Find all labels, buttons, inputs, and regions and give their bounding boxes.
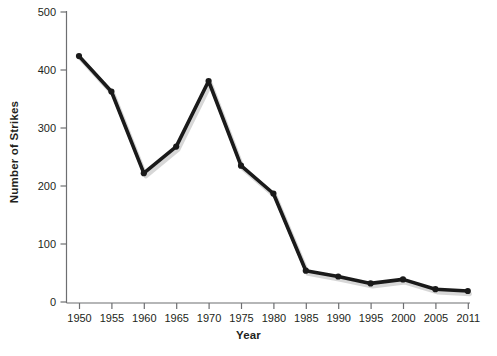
data-point (368, 280, 374, 286)
x-tick-label-1975: 1975 (229, 312, 253, 324)
x-tick-label-2005: 2005 (424, 312, 448, 324)
data-point (206, 78, 212, 84)
x-tick-label-1980: 1980 (262, 312, 286, 324)
y-tick-label-500: 500 (26, 6, 56, 18)
data-point (141, 170, 147, 176)
y-tick-label-300: 300 (26, 122, 56, 134)
data-point (400, 276, 406, 282)
y-tick-label-200: 200 (26, 180, 56, 192)
data-point (76, 53, 82, 59)
x-tick-label-1965: 1965 (164, 312, 188, 324)
data-point (335, 273, 341, 279)
x-tick-marks (80, 303, 469, 309)
data-point (238, 163, 244, 169)
x-tick-label-1985: 1985 (294, 312, 318, 324)
y-tick-label-0: 0 (26, 296, 56, 308)
data-point (108, 88, 114, 94)
series-line (79, 56, 468, 291)
data-point (303, 268, 309, 274)
x-tick-label-2000: 2000 (391, 312, 415, 324)
axes-group (67, 11, 471, 303)
x-tick-label-1970: 1970 (197, 312, 221, 324)
x-tick-label-1960: 1960 (132, 312, 156, 324)
x-tick-label-1950: 1950 (67, 312, 91, 324)
y-tick-label-100: 100 (26, 238, 56, 250)
data-point (465, 288, 471, 294)
series-markers (76, 53, 471, 294)
x-tick-label-2011: 2011 (456, 312, 480, 324)
series-line-shadow (81, 59, 470, 294)
chart-plot-area (0, 0, 497, 356)
data-point (270, 190, 276, 196)
y-tick-label-400: 400 (26, 64, 56, 76)
line-chart-figure: 500 400 300 200 100 0 1950 1955 1960 196… (0, 0, 497, 356)
data-point (173, 144, 179, 150)
x-tick-label-1955: 1955 (100, 312, 124, 324)
x-axis-title: Year (0, 329, 497, 341)
data-point (432, 286, 438, 292)
y-tick-marks (61, 12, 67, 302)
x-tick-label-1990: 1990 (326, 312, 350, 324)
x-tick-label-1995: 1995 (359, 312, 383, 324)
y-axis-title: Number of Strikes (6, 52, 22, 252)
